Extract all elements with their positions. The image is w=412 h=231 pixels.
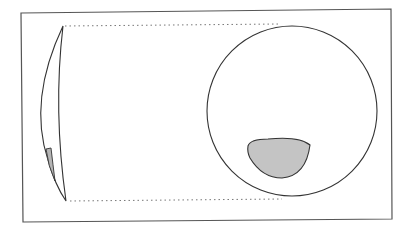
diagram-canvas bbox=[0, 0, 412, 231]
projection-line-top bbox=[65, 24, 280, 26]
projection-line-bottom bbox=[70, 199, 282, 201]
